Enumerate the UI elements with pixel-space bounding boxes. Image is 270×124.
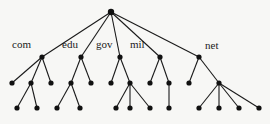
tree-edge [31, 57, 42, 83]
tree-edge [42, 12, 111, 57]
leaf-node [166, 80, 171, 85]
label-com: com [12, 38, 31, 50]
leaf-node [28, 80, 33, 85]
tree-edge [81, 12, 111, 57]
leaf-node [34, 105, 39, 110]
leaf-node [216, 80, 221, 85]
tree-edge [219, 83, 239, 108]
tree-edge [57, 83, 71, 108]
leaf-node [108, 80, 113, 85]
node-net [196, 54, 201, 59]
leaf-node [77, 105, 82, 110]
tree-edge [130, 83, 150, 108]
tree-edge [111, 12, 199, 57]
tree-edge [71, 83, 80, 108]
leaf-node [236, 105, 241, 110]
tree-edges [12, 12, 259, 108]
tree-edge [81, 57, 91, 83]
tree-edge [219, 83, 259, 108]
domain-tree-diagram: comedugovmilnet [0, 0, 270, 124]
tree-edge [111, 57, 120, 83]
leaf-node [54, 105, 59, 110]
tree-edge [199, 57, 219, 83]
leaf-node [256, 105, 261, 110]
tree-edge [189, 57, 199, 83]
tree-edge [160, 57, 169, 83]
leaf-node [88, 80, 93, 85]
tree-edge [71, 57, 81, 83]
label-net: net [205, 39, 218, 51]
leaf-node [127, 80, 132, 85]
leaf-node [14, 105, 19, 110]
node-gov [117, 54, 122, 59]
tree-edge [31, 83, 37, 108]
leaf-node [216, 105, 221, 110]
label-mil: mil [130, 38, 145, 50]
leaf-node [147, 80, 152, 85]
label-gov: gov [96, 38, 113, 50]
leaf-node [147, 105, 152, 110]
leaf-node [186, 80, 191, 85]
node-edu [78, 54, 83, 59]
tree-edge [42, 57, 51, 83]
tree-edge [12, 57, 42, 83]
leaf-node [48, 80, 53, 85]
leaf-node [68, 80, 73, 85]
leaf-node [113, 105, 118, 110]
label-edu: edu [62, 38, 78, 50]
root-node [108, 9, 114, 15]
tree-edge [150, 57, 160, 83]
tree-edge [17, 83, 31, 108]
leaf-node [166, 105, 171, 110]
tree-edge [199, 83, 219, 108]
node-com [39, 54, 44, 59]
tree-edge [120, 57, 130, 83]
tree-edge [116, 83, 130, 108]
tree-labels: comedugovmilnet [12, 38, 218, 51]
leaf-node [127, 105, 132, 110]
node-mil [157, 54, 162, 59]
leaf-node [196, 105, 201, 110]
leaf-node [9, 80, 14, 85]
